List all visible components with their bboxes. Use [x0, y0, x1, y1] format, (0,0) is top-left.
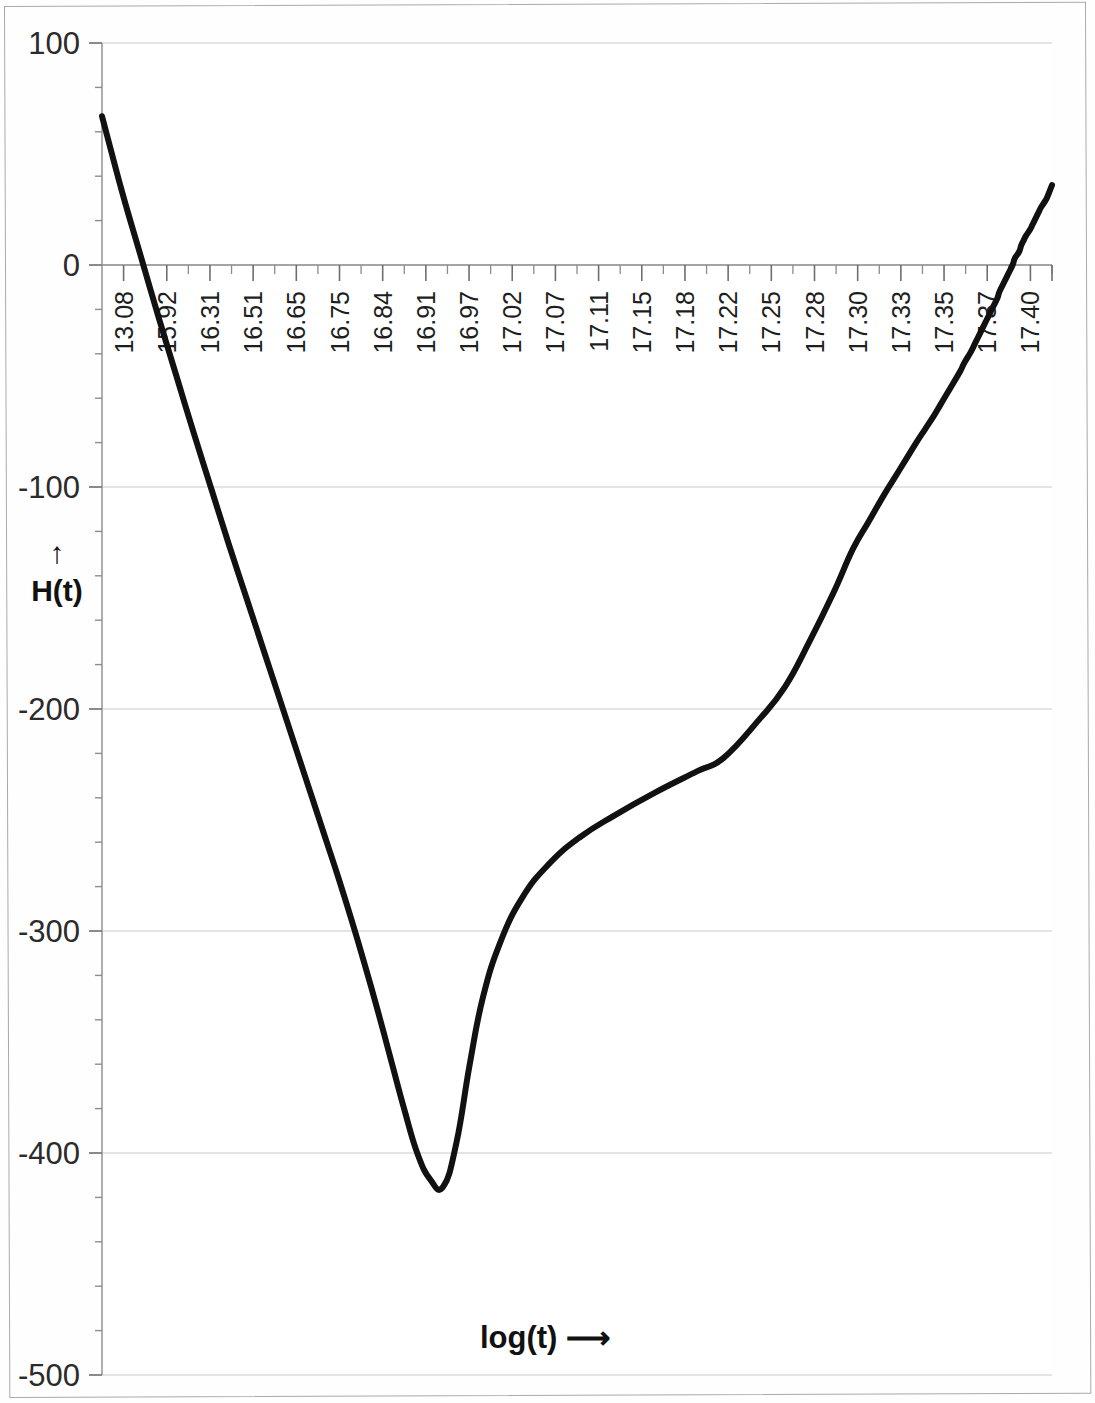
y-tick-label: 0	[63, 248, 80, 283]
x-tick-label: 16.51	[239, 291, 267, 354]
y-axis-ticks	[89, 43, 102, 1375]
x-tick-label: 17.18	[671, 291, 699, 354]
x-tick-label: 16.84	[369, 291, 397, 354]
x-tick-label: 16.65	[282, 291, 310, 354]
x-tick-label: 16.31	[196, 291, 224, 354]
x-tick-label: 16.75	[326, 291, 354, 354]
x-tick-label: 17.11	[585, 291, 613, 352]
x-tick-label: 13.08	[110, 291, 138, 354]
x-tick-label: 17.07	[541, 291, 569, 354]
x-tick-label: 17.35	[930, 291, 958, 354]
x-tick-label: 17.40	[1016, 291, 1044, 354]
x-tick-label: 16.91	[412, 291, 440, 354]
x-tick-label: 17.22	[714, 291, 742, 354]
y-tick-label: -400	[18, 1136, 80, 1171]
x-tick-label: 17.02	[498, 291, 526, 354]
chart-figure: 1000-100-200-300-400-500 13.0815.9216.31…	[0, 0, 1095, 1403]
x-tick-label: 17.28	[801, 291, 829, 354]
x-tick-label: 17.33	[887, 291, 915, 354]
y-axis-tick-labels: 1000-100-200-300-400-500	[18, 26, 80, 1393]
y-axis-title: H(t)	[31, 574, 83, 607]
y-axis-arrow-icon: ↑	[50, 536, 65, 569]
x-tick-label: 16.97	[455, 291, 483, 354]
x-tick-label: 17.25	[757, 291, 785, 354]
x-tick-label: 17.30	[844, 291, 872, 354]
y-tick-label: -300	[18, 914, 80, 949]
x-tick-label: 17.15	[628, 291, 656, 354]
line-chart-plot: 1000-100-200-300-400-500 13.0815.9216.31…	[0, 0, 1095, 1403]
y-tick-label: 100	[28, 26, 80, 61]
y-tick-label: -500	[18, 1358, 80, 1393]
x-axis-title: log(t) ⟶	[480, 1320, 610, 1355]
y-tick-label: -100	[18, 470, 80, 505]
y-tick-label: -200	[18, 692, 80, 727]
